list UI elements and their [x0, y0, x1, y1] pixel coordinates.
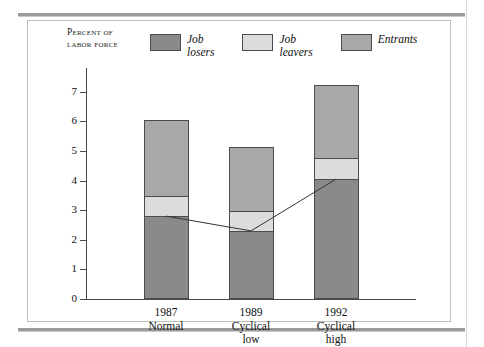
- legend-label-word2: leavers: [279, 46, 312, 59]
- legend-label-word1: Job: [187, 33, 204, 45]
- chart-legend: JoblosersJobleaversEntrants: [150, 33, 417, 58]
- legend-label-word1: Entrants: [378, 33, 418, 45]
- y-tick-label: 4: [72, 174, 78, 186]
- legend-label-word2: losers: [187, 46, 214, 59]
- overlay-polyline: [166, 179, 336, 231]
- plot-area: 01234567 1987Normal1989Cyclicallow1992Cy…: [86, 74, 416, 300]
- legend-item-job-losers: Joblosers: [150, 33, 214, 58]
- y-axis-title: Percent of labor force: [67, 26, 157, 50]
- y-tick-label: 1: [72, 262, 78, 274]
- legend-label-word1: Job: [279, 33, 296, 45]
- y-axis-title-line1: Percent of: [67, 26, 157, 38]
- legend-label-job-losers: Joblosers: [187, 33, 214, 58]
- y-tick-label: 7: [72, 85, 78, 97]
- legend-label-entrants: Entrants: [378, 33, 418, 46]
- y-tick-label: 0: [72, 292, 78, 304]
- y-tick-label: 2: [72, 233, 78, 245]
- y-tick-label: 3: [72, 203, 78, 215]
- legend-item-entrants: Entrants: [341, 33, 418, 58]
- legend-swatch-job-losers: [150, 34, 181, 51]
- y-axis-title-line2: labor force: [67, 38, 157, 50]
- legend-label-job-leavers: Jobleavers: [279, 33, 312, 58]
- page-rule-top: [18, 13, 465, 16]
- y-tick-label: 5: [72, 144, 78, 156]
- page-edge-right: [466, 0, 467, 347]
- legend-swatch-job-leavers: [242, 34, 273, 51]
- chart-figure: Percent of labor force JoblosersJobleave…: [27, 20, 451, 322]
- x-label-year: 1992: [286, 306, 386, 320]
- overlay-line: [86, 74, 416, 300]
- x-label-sublabel: Cyclical: [286, 320, 386, 334]
- legend-swatch-entrants: [341, 34, 372, 51]
- legend-item-job-leavers: Jobleavers: [242, 33, 312, 58]
- y-tick-label: 6: [72, 114, 78, 126]
- x-label-1992: 1992Cyclicalhigh: [286, 306, 386, 347]
- x-label-sublabel: high: [286, 333, 386, 347]
